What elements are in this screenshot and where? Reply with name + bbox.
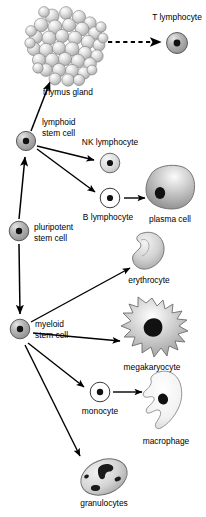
macrophage: macrophage (143, 371, 190, 446)
macrophage-label: macrophage (143, 436, 190, 446)
t-lymphocyte-label: T lymphocyte (152, 12, 202, 22)
pluripotent-stem-cell-label-line2: stem cell (34, 233, 67, 243)
edge-pluripotent-to-myeloid (19, 244, 20, 314)
myeloid-stem-cell: myeloid stem cell (10, 319, 68, 340)
megakaryocyte: megakaryocyte (121, 297, 188, 372)
edge-pluripotent-to-lymphoid (19, 157, 25, 219)
granulocytes-label: granulocytes (80, 498, 128, 508)
t-lymphocyte: T lymphocyte (152, 12, 202, 54)
lymphoid-stem-cell-label-line1: lymphoid (42, 117, 76, 127)
myeloid-stem-cell-label-line1: myeloid (35, 319, 64, 329)
thymus-gland-label: thymus gland (43, 87, 93, 97)
erythrocyte: erythrocyte (128, 232, 170, 285)
erythrocyte-label: erythrocyte (128, 275, 170, 285)
granulocytes: granulocytes (75, 452, 132, 508)
plasma-cell: plasma cell (146, 165, 195, 224)
lymphoid-stem-cell: lymphoid stem cell (16, 117, 75, 151)
thymus-gland: thymus gland (25, 7, 108, 97)
diagram-canvas: thymus gland T lymphocyte lymphoid stem … (0, 0, 206, 517)
myeloid-stem-cell-label-line2: stem cell (35, 330, 68, 340)
pluripotent-stem-cell-label-line1: pluripotent (34, 222, 74, 232)
lymphoid-stem-cell-label-line2: stem cell (42, 128, 75, 138)
nk-lymphocyte: NK lymphocyte (82, 137, 139, 173)
plasma-cell-label: plasma cell (149, 214, 191, 224)
edge-lymphoid-to-b (37, 149, 95, 192)
megakaryocyte-label: megakaryocyte (124, 362, 181, 372)
edge-lymphoid-to-nk (37, 146, 94, 160)
edge-myeloid-to-erythrocyte (31, 268, 130, 322)
edge-myeloid-to-monocyte (28, 343, 84, 387)
monocyte-label: monocyte (82, 406, 119, 416)
pluripotent-stem-cell: pluripotent stem cell (9, 221, 74, 243)
b-lymphocyte: B lymphocyte (83, 188, 134, 222)
monocyte: monocyte (82, 382, 119, 416)
nk-lymphocyte-label: NK lymphocyte (82, 137, 139, 147)
b-lymphocyte-label: B lymphocyte (83, 212, 134, 222)
hematopoiesis-diagram: thymus gland T lymphocyte lymphoid stem … (0, 0, 206, 517)
